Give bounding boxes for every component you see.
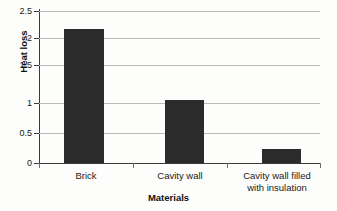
bar-brick [64,29,104,163]
y-axis-title: Heat loss [18,7,29,97]
plot-area: 2.5 2 1.5 1 0.5 0 [39,11,320,163]
tick-mark-0.5 [34,133,39,134]
y-tick-label-1: 1 [27,99,32,108]
bar-chart-figure: 2.5 2 1.5 1 0.5 0 [0,0,337,211]
tick-mark-1 [34,103,39,104]
x-category-label-cavity-wall-filled: Cavity wall filled with insulation [227,170,327,193]
y-tick-label-0.5: 0.5 [19,129,32,138]
x-tick-1 [133,163,134,168]
tick-mark-2.5 [34,11,39,12]
x-category-label-brick-line1: Brick [39,170,133,182]
x-category-label-cavity-wall: Cavity wall [133,170,227,182]
gridline-2.5 [39,11,320,12]
bar-cavity-wall [165,100,204,163]
y-tick-label-0: 0 [27,159,32,168]
x-tick-start [39,163,40,168]
x-tick-end [320,163,321,168]
x-category-label-cavity-wall-line1: Cavity wall [133,170,227,182]
x-axis-title: Materials [0,192,337,203]
tick-mark-2 [34,38,39,39]
tick-mark-1.5 [34,65,39,66]
bar-cavity-wall-filled-with-insulation [262,149,301,163]
x-category-label-brick: Brick [39,170,133,182]
gridline-0-baseline [39,163,320,164]
x-tick-2 [227,163,228,168]
x-category-label-cavity-wall-filled-line1: Cavity wall filled [227,170,327,182]
